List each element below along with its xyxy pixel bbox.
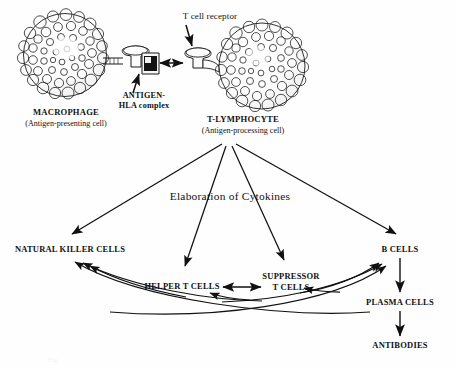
natural-killer-cells-label: NATURAL KILLER CELLS: [15, 245, 125, 254]
suppressor-t-cells-label-line2: T CELLS: [273, 283, 310, 292]
antigen-hla-complex-icon: [103, 46, 159, 74]
helper-t-cells-label: HELPER T CELLS: [144, 282, 219, 291]
diagram-graphics: [0, 0, 456, 368]
t-cell-receptor-label: T cell receptor: [183, 12, 237, 22]
antigen-hla-label-line2: HLA complex: [119, 102, 170, 111]
t-lymphocyte-label: T-LYMPHOCYTE: [207, 115, 279, 124]
fan-arrow-to-suppressor-t-cells: [232, 146, 284, 260]
t-lymphocyte-sublabel: (Antigen-processing cell): [202, 127, 284, 136]
t-cell-receptor-icon: [185, 48, 219, 72]
antibodies-label: ANTIBODIES: [372, 341, 427, 350]
t-lymphocyte-cell-icon: [215, 19, 308, 112]
macrophage-sublabel: (Antigen-presenting cell): [25, 120, 107, 129]
diagram-canvas: T cell receptor ANTIGEN- HLA complex MAC…: [0, 0, 456, 368]
fan-arrow-to-natural-killer-cells: [72, 144, 222, 234]
antigen-hla-label-line1: ANTIGEN-: [123, 92, 166, 101]
cropped-figure-caption: Fig.: [48, 356, 59, 364]
suppressor-t-cells-label-line1: SUPPRESSOR: [262, 272, 319, 281]
t-cell-receptor-pointer-arrow: [186, 25, 192, 46]
macrophage-cell-icon: [17, 9, 108, 99]
plasma-cells-label: PLASMA CELLS: [366, 298, 434, 307]
fan-arrow-to-helper-t-cells: [185, 146, 226, 266]
macrophage-label: MACROPHAGE: [33, 108, 99, 117]
elaboration-of-cytokines-label: Elaboration of Cytokines: [170, 190, 291, 202]
fan-arrow-to-b-cells: [236, 144, 396, 234]
b-cells-label: B CELLS: [381, 245, 418, 254]
